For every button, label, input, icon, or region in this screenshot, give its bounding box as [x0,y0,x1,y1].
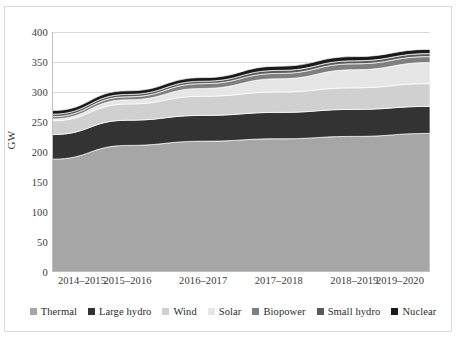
legend-item-thermal[interactable]: Thermal [30,306,77,317]
legend-swatch-icon [317,308,324,315]
legend-label: Biopower [263,306,305,317]
x-axis-tick-labels: 2014–20152015–20162016–20172017–20182018… [52,275,430,291]
x-tick-label: 2014–2015 [58,275,106,286]
legend-swatch-icon [252,308,259,315]
y-tick-label: 350 [12,57,48,68]
legend-item-wind[interactable]: Wind [162,306,196,317]
legend-item-nuclear[interactable]: Nuclear [391,306,436,317]
stacked-area-svg [52,32,430,272]
legend-swatch-icon [391,308,398,315]
y-tick-label: 0 [12,267,48,278]
y-tick-label: 50 [12,237,48,248]
legend-swatch-icon [208,308,215,315]
y-tick-label: 400 [12,27,48,38]
y-axis-tick-labels: 400350300250200150100500 [5,7,48,273]
legend-swatch-icon [30,308,37,315]
chart-screenshot: GW 400350300250200150100500 2014–2015201… [0,0,457,340]
legend-item-solar[interactable]: Solar [208,306,242,317]
y-tick-label: 300 [12,87,48,98]
y-tick-label: 150 [12,177,48,188]
legend-item-biopower[interactable]: Biopower [252,306,305,317]
legend-label: Large hydro [99,306,152,317]
x-tick-label: 2019–2020 [376,275,424,286]
y-tick-label: 200 [12,147,48,158]
legend-swatch-icon [88,308,95,315]
x-tick-label: 2018–2019 [330,275,378,286]
chart-frame: GW 400350300250200150100500 2014–2015201… [4,6,452,332]
legend-label: Small hydro [328,306,381,317]
chart-legend: ThermalLarge hydroWindSolarBiopowerSmall… [10,301,456,321]
legend-swatch-icon [162,308,169,315]
x-tick-label: 2016–2017 [179,275,227,286]
y-tick-label: 250 [12,117,48,128]
legend-label: Thermal [41,306,77,317]
y-tick-label: 100 [12,207,48,218]
x-tick-label: 2015–2016 [104,275,152,286]
legend-label: Nuclear [402,306,436,317]
legend-item-large-hydro[interactable]: Large hydro [88,306,152,317]
legend-label: Solar [219,306,242,317]
plot-area [52,32,430,272]
x-tick-label: 2017–2018 [255,275,303,286]
legend-item-small-hydro[interactable]: Small hydro [317,306,381,317]
legend-label: Wind [173,306,196,317]
area-series-thermal [52,133,430,272]
